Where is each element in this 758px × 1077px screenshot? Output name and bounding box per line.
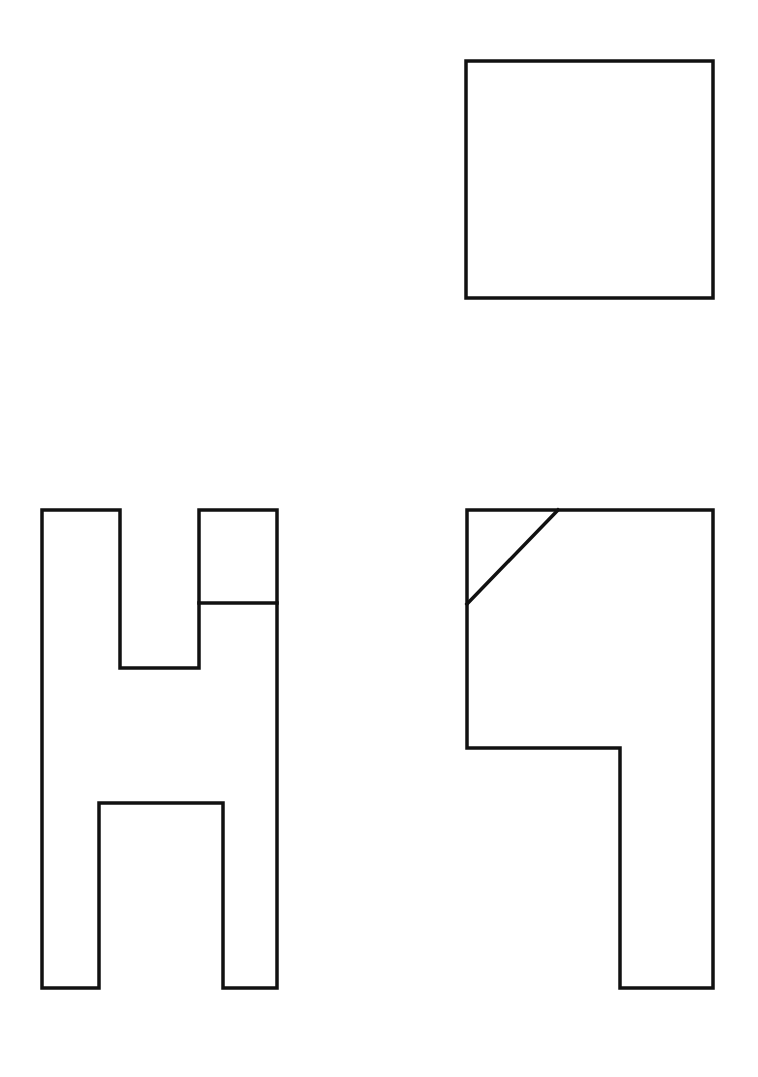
front-view [42, 510, 277, 988]
drawing-canvas [0, 0, 758, 1077]
side-view-outline [467, 510, 713, 988]
top-view-outline [466, 61, 713, 298]
internal-line [467, 510, 558, 604]
side-view [467, 510, 713, 988]
side-view-chamfer-line [467, 510, 558, 604]
front-view-outline [42, 510, 277, 988]
top-view [466, 61, 713, 298]
